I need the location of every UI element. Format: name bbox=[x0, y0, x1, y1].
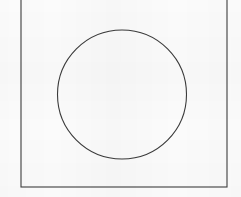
line-drawing bbox=[0, 0, 241, 197]
figure-canvas bbox=[0, 0, 241, 197]
